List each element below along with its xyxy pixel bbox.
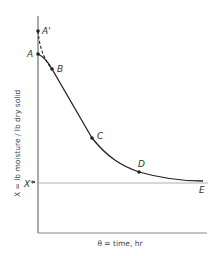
label-b: B [57,64,63,74]
point-a-prime [36,29,40,33]
label-c: C [97,131,104,141]
point-a [36,52,40,56]
drying-curve-diagram: A' A B C D E X* X = lb moisture / lb dry… [0,0,217,256]
y-axis-label: X = lb moisture / lb dry solid [13,90,22,197]
label-a-prime: A' [41,26,51,36]
label-e: E [199,185,205,195]
label-x-star: X* [23,179,35,189]
point-c [90,136,94,140]
point-b [50,67,54,71]
label-a: A [26,49,33,59]
point-d [137,170,141,174]
label-d: D [138,159,145,169]
x-axis-label: θ = time, hr [97,239,143,248]
dashed-curve-a-prime-b [38,31,52,69]
